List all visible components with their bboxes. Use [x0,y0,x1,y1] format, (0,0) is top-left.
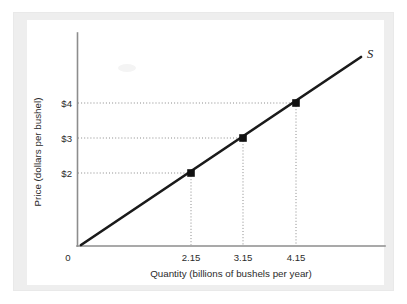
supply-curve-figure: S $4 $3 $2 0 2.15 3.15 4.15 Quantity (bi… [0,0,407,304]
y-tick-label-3: $3 [61,133,72,144]
x-tick-label-315: 3.15 [234,252,253,263]
data-point-marker-2 [239,134,247,142]
origin-label: 0 [65,252,70,263]
data-point-marker-1 [187,169,195,177]
y-tick-label-2: $2 [61,168,72,179]
supply-curve-label: S [367,47,374,61]
x-axis-title: Quantity (billions of bushels per year) [150,268,312,279]
data-point-marker-3 [292,99,300,107]
supply-curve-line [81,57,361,245]
y-tick-label-4: $4 [61,98,72,109]
scan-artifact [118,64,136,72]
supply-curve-chart: S $4 $3 $2 0 2.15 3.15 4.15 Quantity (bi… [0,0,407,304]
y-axis-title: Price (dollars per bushel) [32,98,43,207]
x-tick-label-215: 2.15 [182,252,201,263]
x-tick-label-415: 4.15 [287,252,306,263]
